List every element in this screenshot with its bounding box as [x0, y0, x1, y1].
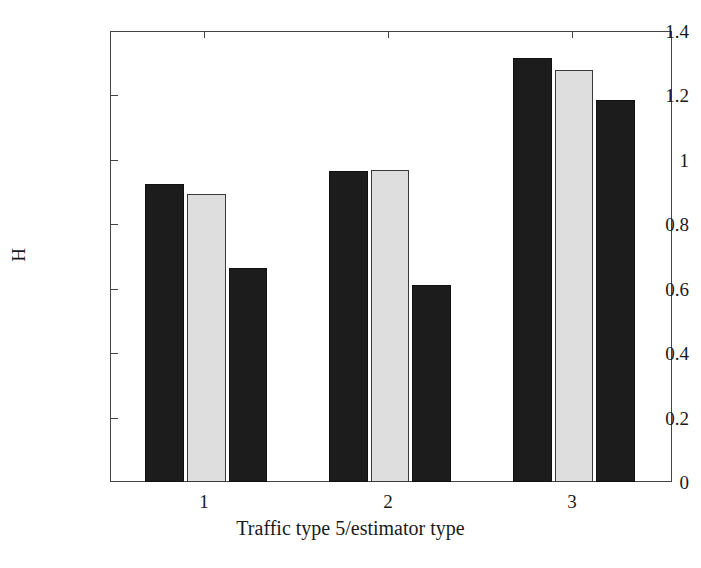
y-axis-tick-mark: [110, 95, 118, 96]
bar: [187, 194, 226, 482]
x-axis-tick-label: 3: [542, 492, 602, 511]
bar: [596, 100, 635, 482]
x-axis-tick-mark: [572, 31, 573, 38]
y-axis-title: H: [9, 248, 28, 262]
y-axis-tick-mark: [110, 160, 118, 161]
y-axis-tick-mark: [110, 289, 118, 290]
bar: [229, 268, 267, 482]
x-axis-title: Traffic type 5/estimator type: [0, 518, 701, 538]
x-axis-tick-mark: [204, 31, 205, 38]
x-axis-tick-label: 2: [358, 492, 418, 511]
y-axis-tick-mark: [110, 224, 118, 225]
bar: [555, 70, 593, 482]
y-axis-tick-mark: [110, 418, 118, 419]
bar: [329, 171, 368, 482]
y-axis-tick-mark: [110, 353, 118, 354]
bar: [371, 170, 409, 482]
x-axis-tick-mark: [388, 31, 389, 38]
bar: [513, 58, 552, 482]
bar-chart-figure: H Traffic type 5/estimator type 00.20.40…: [0, 0, 701, 568]
bar: [145, 184, 184, 482]
x-axis-tick-label: 1: [174, 492, 234, 511]
y-axis-tick-label: 1.4: [601, 22, 701, 41]
bar: [412, 285, 451, 482]
